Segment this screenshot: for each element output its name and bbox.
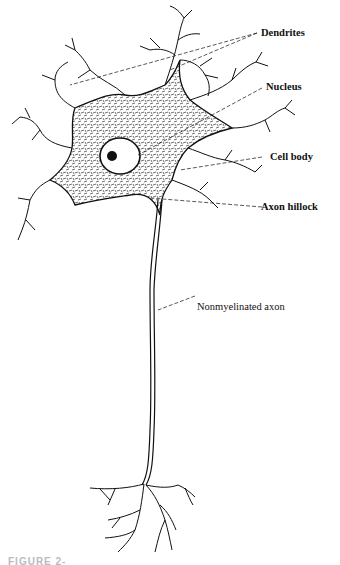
nucleus-icon — [100, 138, 140, 174]
label-nonmyelinated-axon: Nonmyelinated axon — [197, 302, 285, 313]
label-axon-hillock: Axon hillock — [261, 202, 318, 213]
label-cell-body: Cell body — [270, 152, 313, 163]
figure-caption: FIGURE 2- — [8, 556, 66, 565]
label-dendrites: Dendrites — [261, 28, 305, 39]
axon-terminals — [90, 484, 195, 552]
axon-shape — [142, 200, 162, 485]
label-nucleus: Nucleus — [266, 82, 302, 93]
